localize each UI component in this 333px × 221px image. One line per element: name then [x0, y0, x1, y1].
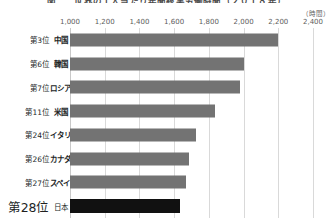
bar-track	[70, 52, 313, 76]
row-rank-label: 第26位	[0, 153, 49, 164]
row-rank-label: 第3位	[0, 34, 49, 45]
x-axis-tick-2200: 2,200	[268, 18, 288, 26]
bar-米国	[70, 105, 215, 118]
bar-日本	[70, 199, 180, 213]
row-country-label: 中国	[50, 34, 68, 45]
labor-hours-bar-chart: 図二 世界の１人当たり年間総実労働時間（２０１８年） （時間） 1,0001,2…	[0, 0, 333, 221]
bar-スペイン	[70, 176, 186, 189]
bar-イタリア	[70, 128, 196, 141]
row-country-label: イタリア	[50, 129, 68, 140]
row-rank-label: 第24位	[0, 129, 49, 140]
row-country-label: 韓国	[50, 58, 68, 69]
chart-row-イタリア: 第24位イタリア	[0, 123, 333, 147]
axis-unit-label: （時間）	[302, 8, 330, 18]
x-axis-tick-1600: 1,600	[164, 18, 184, 26]
chart-row-日本: 第28位日本	[0, 194, 333, 218]
row-rank-label: 第6位	[0, 58, 49, 69]
bar-韓国	[70, 57, 244, 70]
x-axis-tick-labels: 1,0001,2001,4001,6001,8002,0002,2002,400	[0, 18, 333, 28]
chart-row-中国: 第3位中国	[0, 28, 333, 52]
bar-track	[70, 76, 313, 100]
row-country-label: 日本	[50, 201, 68, 212]
bar-track	[70, 147, 313, 171]
bar-カナダ	[70, 152, 189, 165]
chart-row-米国: 第11位米国	[0, 99, 333, 123]
bar-track	[70, 28, 313, 52]
chart-row-ロシア: 第7位ロシア	[0, 76, 333, 100]
bar-ロシア	[70, 81, 240, 94]
x-axis-tick-1000: 1,000	[60, 18, 80, 26]
row-country-label: ロシア	[50, 82, 68, 93]
row-rank-label: 第11位	[0, 106, 49, 117]
row-rank-label: 第27位	[0, 177, 49, 188]
x-axis-tick-2400: 2,400	[303, 18, 323, 26]
bar-track	[70, 123, 313, 147]
bar-track	[70, 194, 313, 218]
row-country-label: カナダ	[50, 153, 68, 164]
x-axis-tick-1800: 1,800	[199, 18, 219, 26]
row-rank-label: 第28位	[0, 197, 49, 216]
x-axis-tick-1200: 1,200	[95, 18, 115, 26]
x-axis-tick-2000: 2,000	[234, 18, 254, 26]
bar-track	[70, 99, 313, 123]
bar-中国	[70, 33, 278, 46]
chart-rows: 第3位中国第6位韓国第7位ロシア第11位米国第24位イタリア第26位カナダ第27…	[0, 28, 333, 218]
row-country-label: スペイン	[50, 177, 68, 188]
x-axis-tick-1400: 1,400	[129, 18, 149, 26]
chart-row-カナダ: 第26位カナダ	[0, 147, 333, 171]
row-rank-label: 第7位	[0, 82, 49, 93]
chart-title: 図二 世界の１人当たり年間総実労働時間（２０１８年）	[0, 0, 333, 3]
chart-row-韓国: 第6位韓国	[0, 52, 333, 76]
bar-track	[70, 171, 313, 195]
row-country-label: 米国	[50, 106, 68, 117]
chart-row-スペイン: 第27位スペイン	[0, 171, 333, 195]
